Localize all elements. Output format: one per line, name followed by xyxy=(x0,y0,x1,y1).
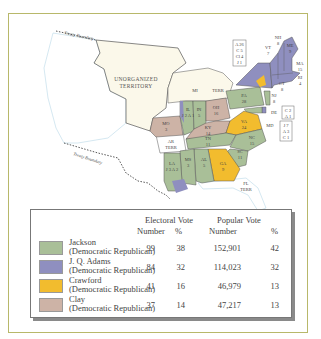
svg-text:C 2: C 2 xyxy=(285,108,291,113)
state-pa xyxy=(226,87,264,109)
electoral-vote-header: Electoral Vote xyxy=(145,215,193,225)
swatch-adams xyxy=(39,260,63,274)
label-al: AL xyxy=(201,157,207,162)
pv-percent-header: % xyxy=(271,226,278,236)
label-in: IN xyxy=(197,107,202,112)
svg-text:A 3: A 3 xyxy=(283,129,290,134)
label-ct: CT xyxy=(279,81,285,86)
label-nh: NH xyxy=(275,35,282,40)
svg-text:C 5: C 5 xyxy=(236,48,243,53)
label-mi: MI xyxy=(192,88,198,93)
votes-nh: 8 xyxy=(277,41,280,46)
pv-number: 47,217 xyxy=(205,300,241,310)
label-sc: SC xyxy=(237,149,243,154)
label-fl: FL xyxy=(243,181,249,186)
election-map: Treaty Boundary Treaty Boundary UNORGANI… xyxy=(8,13,308,213)
svg-text:C 1: C 1 xyxy=(283,135,289,140)
svg-text:J 1: J 1 xyxy=(237,60,242,65)
pv-number: 114,023 xyxy=(205,262,241,272)
swatch-crawford xyxy=(39,279,63,293)
pv-percent: 13 xyxy=(265,300,279,310)
treaty-label-south: Treaty Boundary xyxy=(73,151,103,165)
label-oh: OH xyxy=(213,105,220,110)
votes-pa: 28 xyxy=(242,99,247,104)
split-box-md: J 7 A 3 C 1 xyxy=(280,121,292,141)
votes-tn: 11 xyxy=(206,142,210,147)
label-vt: VT xyxy=(265,45,271,50)
votes-ma: 15 xyxy=(298,67,303,72)
label-nj: NJ xyxy=(271,93,276,98)
label-ar: AR xyxy=(168,139,174,144)
label-ar-terr: TERR xyxy=(165,145,177,150)
swatch-jackson xyxy=(39,241,63,255)
ev-percent-header: % xyxy=(175,226,182,236)
label-mi-terr: TERR xyxy=(212,88,224,93)
florida-territory xyxy=(198,178,266,211)
ev-number: 41 xyxy=(141,281,155,291)
pv-number-header: Number xyxy=(209,226,237,236)
label-mo: MO xyxy=(162,121,170,126)
legend-row-clay: Clay(Democratic Republican) 37 14 47,217… xyxy=(37,297,287,316)
label-tn: TN xyxy=(205,136,212,141)
label-de: DE xyxy=(271,110,277,115)
ev-percent: 38 xyxy=(171,243,185,253)
ev-number: 37 xyxy=(141,300,155,310)
label-me: ME xyxy=(287,43,294,48)
label-pa: PA xyxy=(241,93,247,98)
ev-percent: 14 xyxy=(171,300,185,310)
pv-number: 46,979 xyxy=(205,281,241,291)
votes-il: J 2 A 1 xyxy=(182,113,194,118)
split-box-de: C 2 A 1 xyxy=(282,106,294,119)
ev-number: 84 xyxy=(141,262,155,272)
state-nj xyxy=(264,91,270,105)
votes-vt: 7 xyxy=(267,51,270,56)
votes-ri: 4 xyxy=(299,81,302,86)
michigan-territory xyxy=(168,68,233,103)
ev-number: 99 xyxy=(141,243,155,253)
votes-sc: 11 xyxy=(238,155,242,160)
label-ky: KY xyxy=(205,125,212,130)
label-unorganized: UNORGANIZED xyxy=(114,76,157,82)
label-fl-terr: TERR xyxy=(240,187,252,192)
label-ri: RI xyxy=(298,75,303,80)
state-de xyxy=(262,107,266,113)
label-ga: GA xyxy=(220,161,227,166)
ev-number-header: Number xyxy=(137,226,165,236)
votes-la: J 3 A 2 xyxy=(166,167,178,172)
treaty-boundary-south xyxy=(64,143,170,199)
ev-percent: 16 xyxy=(171,281,185,291)
ev-percent: 32 xyxy=(171,262,185,272)
votes-nc: 15 xyxy=(250,141,255,146)
votes-oh: 16 xyxy=(214,111,219,116)
svg-text:J 7: J 7 xyxy=(283,123,289,128)
svg-text:A 1: A 1 xyxy=(285,114,291,119)
popular-vote-header: Popular Vote xyxy=(217,215,261,225)
label-va: VA xyxy=(241,119,248,124)
state-ny xyxy=(236,63,272,88)
label-il: IL xyxy=(186,107,190,112)
pv-percent: 32 xyxy=(265,262,279,272)
svg-text:Cl 4: Cl 4 xyxy=(236,54,244,59)
svg-text:A 26: A 26 xyxy=(235,42,244,47)
swatch-clay xyxy=(39,298,63,312)
votes-nj: 8 xyxy=(273,99,276,104)
votes-va: 24 xyxy=(242,125,247,130)
label-la: LA xyxy=(169,161,176,166)
pv-percent: 13 xyxy=(265,281,279,291)
label-nc: NC xyxy=(249,135,255,140)
results-legend: Electoral Vote Popular Vote Number % Num… xyxy=(30,209,292,318)
pv-number: 152,901 xyxy=(205,243,241,253)
label-md: MD xyxy=(266,123,274,128)
votes-ct: 8 xyxy=(281,87,284,92)
label-territory: TERRITORY xyxy=(119,83,152,89)
label-ms: MS xyxy=(185,157,192,162)
pv-percent: 42 xyxy=(265,243,279,253)
split-box-ny: A 26 C 5 Cl 4 J 1 xyxy=(233,40,246,66)
label-ma: MA xyxy=(296,61,304,66)
